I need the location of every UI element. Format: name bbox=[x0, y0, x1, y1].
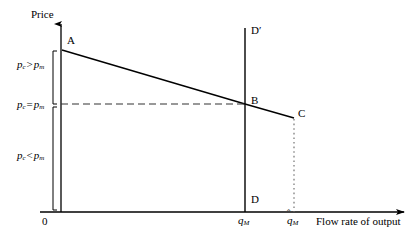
point-label-d-prime: D′ bbox=[251, 25, 261, 36]
pm-subscript-below: m bbox=[39, 154, 44, 162]
pm-subscript-above: m bbox=[39, 63, 44, 71]
demand-curve-segment-ab bbox=[62, 50, 245, 104]
relation-above: > bbox=[26, 58, 34, 70]
qm-subscript: M bbox=[244, 219, 250, 227]
point-label-a: A bbox=[67, 35, 75, 46]
x-tick-label-qhat-m: ˆqM bbox=[287, 215, 298, 227]
x-axis-title: Flow rate of output bbox=[316, 216, 401, 227]
point-label-d: D bbox=[251, 194, 259, 205]
pm-subscript-equal: m bbox=[39, 103, 44, 111]
price-label-pc-greater-pm: pc>pm bbox=[17, 59, 44, 71]
qhat-subscript: M bbox=[293, 219, 299, 227]
relation-equal: = bbox=[26, 98, 34, 110]
price-label-pc-less-pm: pc<pm bbox=[17, 150, 44, 162]
hat-accent-icon: ˆ bbox=[287, 209, 290, 219]
qhat-accent-wrapper: ˆq bbox=[287, 215, 293, 226]
x-tick-label-qm: qM bbox=[238, 215, 249, 227]
point-label-b: B bbox=[251, 95, 258, 106]
economics-demand-diagram: Price Flow rate of output 0 A B C D D′ p… bbox=[0, 0, 419, 242]
demand-curve-segment-bc bbox=[245, 104, 294, 118]
y-axis-title: Price bbox=[31, 9, 54, 20]
point-label-c: C bbox=[298, 108, 305, 119]
relation-below: < bbox=[26, 149, 34, 161]
price-label-pc-equals-pm: pc=pm bbox=[17, 99, 44, 111]
diagram-canvas bbox=[0, 0, 419, 242]
price-interval-brackets bbox=[53, 51, 57, 210]
origin-label: 0 bbox=[42, 216, 48, 227]
